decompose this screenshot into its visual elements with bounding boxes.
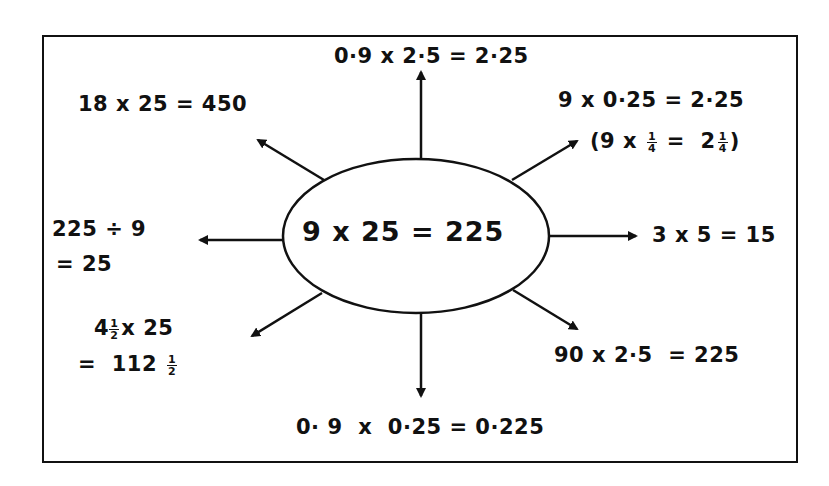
center-equation: 9 x 25 = 225 xyxy=(302,217,504,247)
branch-down-right-label: 90 x 2·5 = 225 xyxy=(554,343,739,367)
arrow-down-right xyxy=(513,290,577,329)
fraction-one-quarter-2: 1 4 xyxy=(718,131,728,154)
sub-mid: = 2 xyxy=(667,129,716,153)
branch-left-line1: 225 ÷ 9 xyxy=(52,217,146,241)
branch-down-left-line2: = 112 1 2 xyxy=(78,352,179,377)
fraction-one-half-2: 1 2 xyxy=(167,354,177,377)
rest-text: x 25 xyxy=(121,316,173,340)
frac-numerator: 1 xyxy=(718,131,728,143)
sub-close: ) xyxy=(730,129,740,153)
frac-denominator: 4 xyxy=(647,143,657,154)
branch-up-left-label: 18 x 25 = 450 xyxy=(78,92,247,116)
branch-up-label: 0·9 x 2·5 = 2·25 xyxy=(334,44,529,68)
frac-numerator: 1 xyxy=(647,131,657,143)
prefix-text: = 112 xyxy=(78,352,157,376)
branch-down-label: 0· 9 x 0·25 = 0·225 xyxy=(296,415,544,439)
fraction-one-quarter: 1 4 xyxy=(647,131,657,154)
arrow-up-right xyxy=(512,141,577,180)
branch-up-right-sublabel: (9 x 1 4 = 2 1 4 ) xyxy=(590,129,740,154)
frac-denominator: 2 xyxy=(109,330,119,341)
branch-right-label: 3 x 5 = 15 xyxy=(652,223,776,247)
arrow-up-left xyxy=(258,140,324,180)
fraction-one-half: 1 2 xyxy=(109,318,119,341)
branch-down-left-line1: 4 1 2 x 25 xyxy=(94,316,173,341)
frac-numerator: 1 xyxy=(109,318,119,330)
frac-denominator: 4 xyxy=(718,143,728,154)
whole-number: 4 xyxy=(94,316,109,340)
sub-open: (9 x xyxy=(590,129,637,153)
branch-up-right-label: 9 x 0·25 = 2·25 xyxy=(558,88,744,112)
branch-left-line2: = 25 xyxy=(56,252,112,276)
frac-denominator: 2 xyxy=(167,366,177,377)
arrow-down-left xyxy=(252,293,322,336)
frac-numerator: 1 xyxy=(167,354,177,366)
